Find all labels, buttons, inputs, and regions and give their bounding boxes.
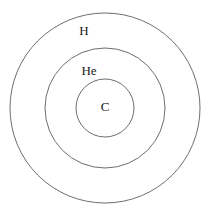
concentric-circles-graphic: [0, 0, 222, 218]
shell-diagram: H He C: [0, 0, 222, 218]
outer-shell-label: H: [79, 24, 88, 37]
middle-shell-label: He: [81, 64, 96, 77]
inner-shell-label: C: [101, 100, 110, 113]
